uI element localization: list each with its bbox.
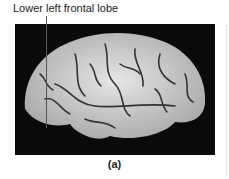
figure-caption: (a) — [0, 158, 229, 170]
brain-image-icon — [15, 24, 215, 155]
divider — [226, 25, 227, 175]
brain-photo — [15, 24, 215, 155]
annotation-label: Lower left frontal lobe — [13, 2, 118, 14]
leader-line — [46, 16, 47, 128]
